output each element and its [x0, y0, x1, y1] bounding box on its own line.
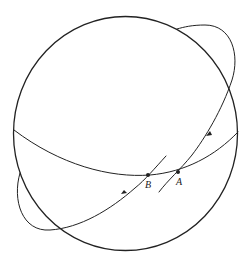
point-b-marker	[146, 173, 150, 177]
arrow-orbit-b-icon	[121, 190, 127, 194]
point-a-label: A	[175, 176, 183, 187]
point-b-label: B	[145, 179, 151, 190]
sphere-outline	[14, 17, 238, 251]
sphere-orbit-diagram: B A	[0, 0, 246, 264]
orbit-path-a	[159, 25, 235, 192]
orbit-path-b	[17, 156, 166, 230]
point-a-marker	[176, 170, 180, 174]
